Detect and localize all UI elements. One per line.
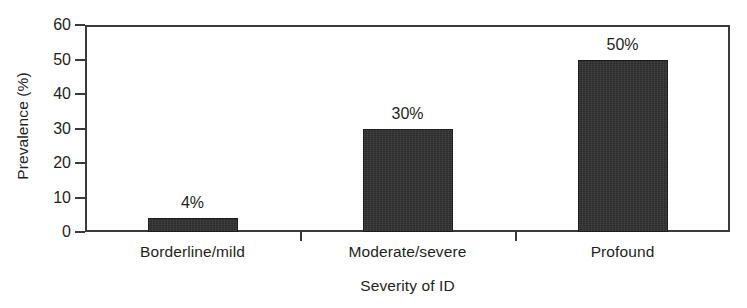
x-axis-category-label: Borderline/mild xyxy=(140,243,245,261)
bar-value-label: 50% xyxy=(606,36,638,54)
y-axis-label: 30 xyxy=(9,118,71,140)
x-axis-tick xyxy=(515,232,517,241)
bar xyxy=(363,129,453,233)
y-axis-label: 40 xyxy=(9,83,71,105)
x-axis-category-label: Moderate/severe xyxy=(349,243,467,261)
x-axis-tick xyxy=(300,232,302,241)
y-axis-label: 20 xyxy=(9,152,71,174)
x-axis-category-label: Profound xyxy=(591,243,655,261)
y-axis-tick xyxy=(75,197,85,199)
bar xyxy=(578,60,668,233)
bar-chart: Prevalence (%) 0102030405060 4%Borderlin… xyxy=(0,0,747,308)
bar xyxy=(148,218,238,232)
y-axis-tick xyxy=(75,93,85,95)
y-axis-tick xyxy=(75,162,85,164)
x-axis-title: Severity of ID xyxy=(85,277,730,295)
y-axis-tick xyxy=(75,24,85,26)
bar-value-label: 30% xyxy=(391,105,423,123)
y-axis-tick xyxy=(75,59,85,61)
y-axis-label: 60 xyxy=(9,14,71,36)
bar-value-label: 4% xyxy=(181,194,204,212)
y-axis-label: 0 xyxy=(9,221,71,243)
y-axis-label: 10 xyxy=(9,187,71,209)
y-axis-label: 50 xyxy=(9,49,71,71)
y-axis-tick xyxy=(75,128,85,130)
y-axis-tick xyxy=(75,231,85,233)
